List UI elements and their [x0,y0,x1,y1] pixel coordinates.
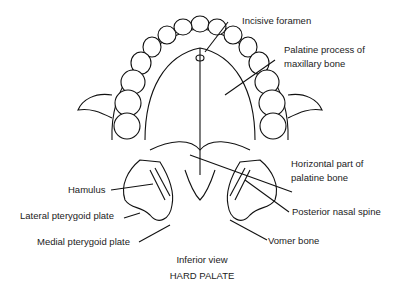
label-horizontal-part-line2: palatine bone [291,172,348,184]
label-vomer-bone: Vomer bone [268,235,319,247]
caption-title: HARD PALATE [0,270,404,281]
caption-view: Inferior view [0,254,404,265]
label-medial-pterygoid-plate: Medial pterygoid plate [37,236,130,248]
label-lateral-pterygoid-plate: Lateral pterygoid plate [20,210,114,222]
label-horizontal-part-line1: Horizontal part of [291,158,363,170]
label-palatine-process-line1: Palatine process of [284,44,365,56]
label-hamulus: Hamulus [68,184,106,196]
label-palatine-process-line2: maxillary bone [284,58,345,70]
label-incisive-foramen: Incisive foramen [242,15,311,27]
label-posterior-nasal-spine: Posterior nasal spine [292,206,381,218]
